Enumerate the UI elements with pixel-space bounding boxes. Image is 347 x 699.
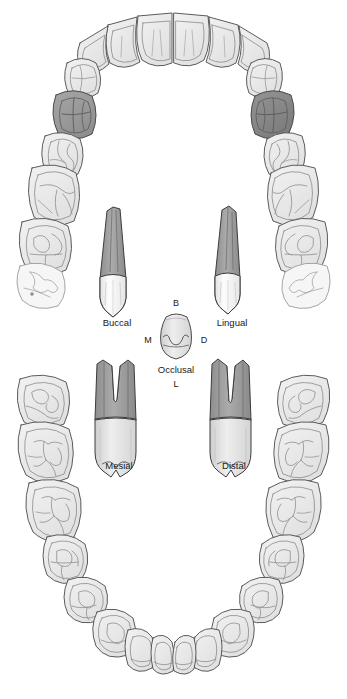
lower-right-central-incisor bbox=[173, 635, 196, 674]
lingual-label: Lingual bbox=[217, 317, 248, 328]
lower-left-central-incisor bbox=[151, 635, 174, 674]
lower-right-second-molar bbox=[274, 422, 329, 483]
upper-left-wisdom-tooth bbox=[17, 263, 65, 308]
lower-left-third-molar bbox=[17, 375, 69, 428]
lower-left-second-molar bbox=[18, 422, 73, 483]
upper-right-lateral-incisor bbox=[206, 17, 240, 67]
upper-left-central-incisor bbox=[137, 13, 172, 66]
occlusal-label: Occlusal bbox=[158, 364, 194, 375]
upper-left-first-molar bbox=[53, 91, 96, 139]
upper-right-wisdom-tooth bbox=[282, 263, 330, 308]
dental-illustration-svg: Buccal Lingual Occlusal B M D L Mesial bbox=[0, 0, 347, 699]
upper-right-central-incisor bbox=[174, 13, 209, 66]
lower-right-third-molar bbox=[277, 375, 329, 428]
lower-left-second-premolar bbox=[43, 535, 88, 584]
upper-left-lateral-incisor bbox=[106, 17, 140, 67]
lower-left-lateral-incisor bbox=[125, 629, 155, 672]
lower-right-first-molar bbox=[266, 479, 321, 541]
orientation-buccal-abbrev: B bbox=[173, 298, 179, 308]
occlusal-view-tooth bbox=[161, 314, 192, 359]
buccal-label: Buccal bbox=[103, 317, 132, 328]
orientation-lingual-abbrev: L bbox=[173, 379, 178, 389]
orientation-mesial-abbrev: M bbox=[144, 335, 152, 345]
lower-right-second-premolar bbox=[259, 535, 304, 584]
mesial-label: Mesial bbox=[105, 460, 132, 471]
upper-right-second-molar bbox=[267, 165, 318, 226]
distal-label: Distal bbox=[222, 460, 246, 471]
orientation-distal-abbrev: D bbox=[201, 335, 208, 345]
upper-left-second-molar bbox=[28, 165, 79, 226]
upper-right-first-molar bbox=[251, 91, 294, 139]
lower-right-lateral-incisor bbox=[192, 629, 222, 672]
dental-arch-figure: Buccal Lingual Occlusal B M D L Mesial bbox=[0, 0, 347, 699]
lower-left-first-molar bbox=[26, 479, 81, 541]
